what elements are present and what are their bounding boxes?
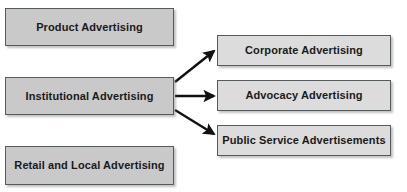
arrow-institutional-to-corporate xyxy=(175,51,214,82)
node-product-advertising[interactable]: Product Advertising xyxy=(5,8,174,46)
node-public-service-advertisements[interactable]: Public Service Advertisements xyxy=(217,125,391,156)
node-label: Institutional Advertising xyxy=(26,90,154,102)
node-retail-and-local-advertising[interactable]: Retail and Local Advertising xyxy=(5,146,174,185)
node-label: Advocacy Advertising xyxy=(245,89,362,101)
advertising-types-diagram: Product Advertising Institutional Advert… xyxy=(0,0,407,192)
node-advocacy-advertising[interactable]: Advocacy Advertising xyxy=(217,80,391,111)
node-label: Corporate Advertising xyxy=(245,44,363,56)
node-label: Public Service Advertisements xyxy=(222,134,385,146)
arrow-institutional-to-public-service xyxy=(175,110,214,134)
node-label: Product Advertising xyxy=(36,21,143,33)
node-institutional-advertising[interactable]: Institutional Advertising xyxy=(5,77,174,115)
node-label: Retail and Local Advertising xyxy=(14,159,164,171)
node-corporate-advertising[interactable]: Corporate Advertising xyxy=(217,35,391,66)
